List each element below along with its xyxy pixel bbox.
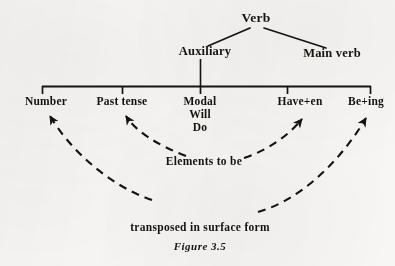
annotation-elements-to-be: Elements to be	[166, 155, 242, 167]
node-modal-label: Modal	[184, 95, 217, 107]
annotation-transposed-in-surface-form: transposed in surface form	[130, 221, 270, 233]
node-modal-will: Will	[184, 108, 217, 120]
node-number-label: Number	[25, 95, 67, 107]
figure-caption: Figure 3.5	[174, 240, 227, 252]
node-modal-do: Do	[184, 121, 217, 133]
node-have-en: Have+en	[277, 95, 322, 107]
node-modal: Modal Will Do	[184, 95, 217, 133]
figure-page: Verb Auxiliary Main verb Number Past ten…	[0, 0, 395, 266]
node-number: Number	[25, 95, 67, 107]
node-be-ing-label: Be+ing	[348, 95, 384, 107]
node-past-tense-label: Past tense	[97, 95, 148, 107]
node-main-verb: Main verb	[303, 47, 361, 60]
arrow-to-have-en	[244, 119, 302, 158]
node-auxiliary: Auxiliary	[179, 45, 232, 58]
arrow-to-past-tense	[126, 116, 186, 156]
arrow-to-be-ing	[258, 118, 366, 212]
edge-verb-main-verb	[264, 28, 326, 48]
node-be-ing: Be+ing	[348, 95, 384, 107]
node-verb: Verb	[242, 11, 271, 25]
node-have-en-label: Have+en	[277, 95, 322, 107]
node-past-tense: Past tense	[97, 95, 148, 107]
